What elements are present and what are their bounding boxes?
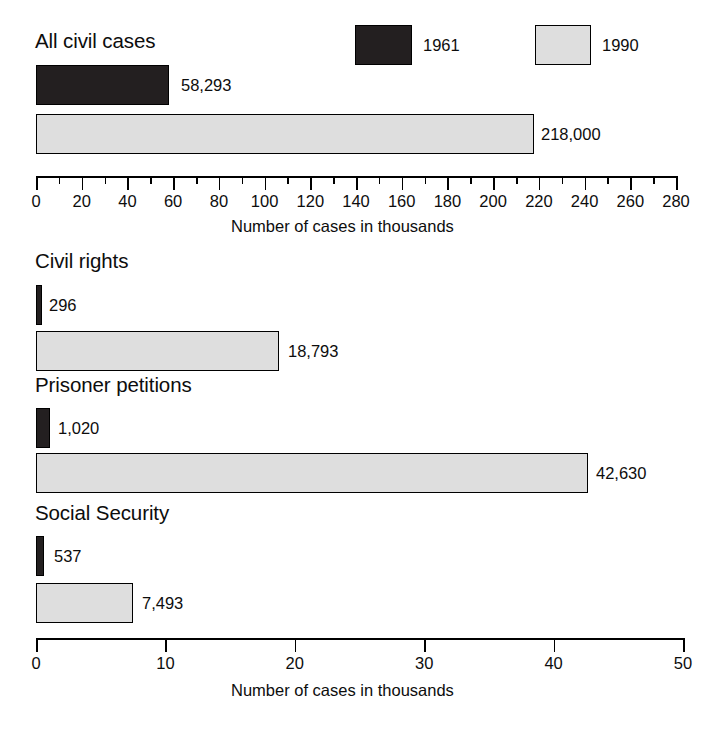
x-axis-top-tick-20 bbox=[82, 176, 84, 190]
x-axis-top-label-0: 0 bbox=[16, 193, 56, 210]
chart-figure: 1961 1990 All civil cases 58,293 218,000 bbox=[0, 0, 723, 734]
x-axis-top-tick-230 bbox=[562, 176, 564, 184]
x-axis-top-label-20: 20 bbox=[62, 193, 102, 210]
bar-prisoner-petitions-1961 bbox=[36, 408, 50, 448]
x-axis-top-label-120: 120 bbox=[290, 193, 330, 210]
x-axis-top-tick-210 bbox=[516, 176, 518, 184]
x-axis-top-tick-50 bbox=[150, 176, 152, 184]
bar-social-security-1961 bbox=[36, 536, 44, 576]
value-label-all-civil-cases-1990: 218,000 bbox=[541, 126, 601, 143]
x-axis-top-label-260: 260 bbox=[610, 193, 650, 210]
x-axis-bottom-label-10: 10 bbox=[145, 655, 185, 672]
x-axis-top-tick-150 bbox=[379, 176, 381, 184]
x-axis-bottom-label-50: 50 bbox=[663, 655, 703, 672]
value-label-civil-rights-1990: 18,793 bbox=[288, 343, 338, 360]
x-axis-top-tick-100 bbox=[265, 176, 267, 190]
x-axis-title-bottom: Number of cases in thousands bbox=[231, 682, 454, 699]
value-label-civil-rights-1961: 296 bbox=[49, 297, 77, 314]
x-axis-top-tick-110 bbox=[287, 176, 289, 184]
x-axis-bottom-tick-30 bbox=[424, 638, 426, 652]
category-label-all-civil-cases: All civil cases bbox=[35, 31, 155, 52]
category-label-prisoner-petitions: Prisoner petitions bbox=[35, 375, 192, 396]
x-axis-top-tick-120 bbox=[310, 176, 312, 190]
value-label-social-security-1961: 537 bbox=[54, 548, 82, 565]
x-axis-top-label-100: 100 bbox=[245, 193, 285, 210]
x-axis-top-tick-280 bbox=[676, 176, 678, 190]
x-axis-top-label-80: 80 bbox=[199, 193, 239, 210]
x-axis-top-tick-260 bbox=[630, 176, 632, 190]
x-axis-top-tick-70 bbox=[196, 176, 198, 184]
x-axis-top-label-180: 180 bbox=[427, 193, 467, 210]
x-axis-bottom-label-40: 40 bbox=[534, 655, 574, 672]
legend-label-1961: 1961 bbox=[423, 37, 460, 54]
x-axis-top-label-60: 60 bbox=[153, 193, 193, 210]
x-axis-bottom-label-20: 20 bbox=[275, 655, 315, 672]
legend-swatch-1990 bbox=[535, 25, 591, 65]
bar-all-civil-cases-1990 bbox=[36, 114, 534, 154]
x-axis-top-tick-170 bbox=[425, 176, 427, 184]
x-axis-top-label-140: 140 bbox=[336, 193, 376, 210]
value-label-prisoner-petitions-1961: 1,020 bbox=[58, 420, 99, 437]
x-axis-top-tick-200 bbox=[493, 176, 495, 190]
x-axis-bottom-tick-10 bbox=[165, 638, 167, 652]
x-axis-bottom-tick-0 bbox=[36, 638, 38, 652]
x-axis-top-tick-250 bbox=[607, 176, 609, 184]
legend-swatch-1961 bbox=[355, 25, 412, 65]
x-axis-bottom-label-0: 0 bbox=[16, 655, 56, 672]
bar-civil-rights-1961 bbox=[36, 285, 42, 325]
x-axis-top-label-160: 160 bbox=[382, 193, 422, 210]
category-label-civil-rights: Civil rights bbox=[35, 251, 128, 272]
x-axis-top-tick-60 bbox=[173, 176, 175, 190]
x-axis-top-label-240: 240 bbox=[565, 193, 605, 210]
x-axis-top-label-220: 220 bbox=[519, 193, 559, 210]
x-axis-top-tick-80 bbox=[219, 176, 221, 190]
legend-label-1990: 1990 bbox=[602, 37, 639, 54]
x-axis-top-tick-240 bbox=[585, 176, 587, 190]
x-axis-bottom-line bbox=[36, 638, 685, 640]
x-axis-top-tick-40 bbox=[127, 176, 129, 190]
x-axis-top-label-200: 200 bbox=[473, 193, 513, 210]
bar-civil-rights-1990 bbox=[36, 331, 279, 371]
x-axis-top-label-280: 280 bbox=[656, 193, 696, 210]
x-axis-top-tick-160 bbox=[402, 176, 404, 190]
x-axis-top-tick-270 bbox=[653, 176, 655, 184]
value-label-all-civil-cases-1961: 58,293 bbox=[181, 77, 231, 94]
x-axis-top-tick-220 bbox=[539, 176, 541, 190]
x-axis-bottom-tick-50 bbox=[683, 638, 685, 652]
x-axis-top-tick-140 bbox=[356, 176, 358, 190]
x-axis-top-tick-90 bbox=[242, 176, 244, 184]
x-axis-top-tick-10 bbox=[59, 176, 61, 184]
bar-all-civil-cases-1961 bbox=[36, 65, 169, 105]
x-axis-top-label-40: 40 bbox=[107, 193, 147, 210]
x-axis-top-tick-180 bbox=[447, 176, 449, 190]
x-axis-title-top: Number of cases in thousands bbox=[231, 218, 454, 235]
x-axis-top-tick-0 bbox=[36, 176, 38, 190]
x-axis-top-tick-30 bbox=[105, 176, 107, 184]
value-label-prisoner-petitions-1990: 42,630 bbox=[596, 465, 646, 482]
bar-prisoner-petitions-1990 bbox=[36, 453, 588, 493]
x-axis-bottom-tick-20 bbox=[295, 638, 297, 652]
bar-social-security-1990 bbox=[36, 583, 133, 623]
x-axis-top-tick-190 bbox=[470, 176, 472, 184]
x-axis-top-tick-130 bbox=[333, 176, 335, 184]
x-axis-bottom-tick-40 bbox=[554, 638, 556, 652]
value-label-social-security-1990: 7,493 bbox=[142, 595, 183, 612]
category-label-social-security: Social Security bbox=[35, 503, 169, 524]
x-axis-bottom-label-30: 30 bbox=[404, 655, 444, 672]
